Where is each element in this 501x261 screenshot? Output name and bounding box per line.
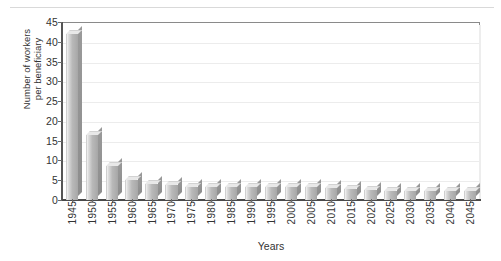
- bar-side-face: [277, 179, 281, 196]
- bar-side-face: [257, 179, 261, 196]
- bar-side-face: [317, 179, 321, 196]
- x-tick-label: 1970: [166, 201, 177, 224]
- bar-side-face: [198, 179, 202, 196]
- x-tick-mark: [231, 199, 232, 202]
- x-tick-mark: [470, 199, 471, 202]
- x-tick-label: 1955: [107, 201, 118, 224]
- x-tick-mark: [271, 199, 272, 202]
- bar-series: [62, 22, 480, 200]
- x-tick-label: 2040: [445, 201, 456, 224]
- bar-side-face: [217, 179, 221, 196]
- bar: [66, 34, 78, 200]
- bar-side-face: [297, 179, 301, 196]
- y-tick-label: 10: [2, 155, 58, 166]
- bar: [245, 187, 257, 200]
- x-tick-mark: [410, 199, 411, 202]
- x-tick-mark: [72, 199, 73, 202]
- bar-front-face: [285, 187, 297, 200]
- x-tick-label: 1965: [147, 201, 158, 224]
- x-tick-mark: [191, 199, 192, 202]
- bar: [86, 135, 98, 200]
- bar-front-face: [106, 166, 118, 200]
- y-axis-title: Number of workers per beneficiary: [21, 0, 43, 139]
- bar: [165, 185, 177, 200]
- x-tick-label: 1995: [266, 201, 277, 224]
- x-tick-mark: [251, 199, 252, 202]
- bar-side-face: [337, 180, 341, 196]
- x-tick-label: 1945: [67, 201, 78, 224]
- bar-front-face: [245, 187, 257, 200]
- x-tick-label: 2005: [306, 201, 317, 224]
- x-tick-label: 1960: [127, 201, 138, 224]
- x-tick-mark: [171, 199, 172, 202]
- x-tick-label: 2015: [346, 201, 357, 224]
- x-tick-mark: [390, 199, 391, 202]
- bar-front-face: [86, 135, 98, 200]
- y-axis-title-line-2: per beneficiary: [32, 0, 43, 139]
- y-axis-title-line-1: Number of workers: [21, 0, 32, 139]
- x-tick-mark: [450, 199, 451, 202]
- x-tick-label: 2030: [405, 201, 416, 224]
- bar-side-face: [357, 181, 361, 196]
- bar-front-face: [66, 34, 78, 200]
- y-tick-label: 5: [2, 175, 58, 186]
- x-tick-label: 1985: [226, 201, 237, 224]
- x-tick-mark: [430, 199, 431, 202]
- bar: [285, 187, 297, 200]
- x-tick-label: 2000: [286, 201, 297, 224]
- x-tick-mark: [311, 199, 312, 202]
- x-tick-label: 1975: [186, 201, 197, 224]
- x-tick-label: 1980: [206, 201, 217, 224]
- x-tick-label: 2035: [425, 201, 436, 224]
- x-tick-mark: [331, 199, 332, 202]
- bar-side-face: [98, 127, 102, 196]
- x-tick-label: 1990: [246, 201, 257, 224]
- chart-figure: 051015202530354045 Number of workers per…: [0, 0, 501, 261]
- bar-front-face: [145, 184, 157, 200]
- x-axis-ticks: 1945195019551960196519701975198019851990…: [62, 201, 480, 245]
- x-tick-mark: [351, 199, 352, 202]
- x-tick-label: 2010: [326, 201, 337, 224]
- header-divider: [10, 7, 494, 8]
- x-tick-label: 2020: [366, 201, 377, 224]
- x-tick-mark: [291, 199, 292, 202]
- x-tick-label: 2045: [465, 201, 476, 224]
- x-tick-mark: [371, 199, 372, 202]
- x-tick-mark: [152, 199, 153, 202]
- bar-front-face: [125, 180, 137, 200]
- y-tick-label: 0: [2, 195, 58, 206]
- x-tick-label: 1950: [87, 201, 98, 224]
- x-axis-title: Years: [62, 240, 480, 252]
- bar: [125, 180, 137, 200]
- bar-side-face: [78, 26, 82, 196]
- x-tick-label: 2025: [385, 201, 396, 224]
- x-tick-mark: [92, 199, 93, 202]
- x-tick-mark: [112, 199, 113, 202]
- bar-front-face: [165, 185, 177, 200]
- x-tick-mark: [211, 199, 212, 202]
- bar: [145, 184, 157, 200]
- x-tick-mark: [132, 199, 133, 202]
- bar: [106, 166, 118, 200]
- bar-side-face: [237, 179, 241, 196]
